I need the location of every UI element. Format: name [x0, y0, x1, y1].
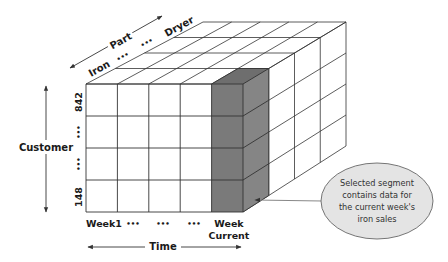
- customer-ellipsis-1: •••: [75, 125, 83, 138]
- part-axis-label: Part: [108, 30, 134, 51]
- time-col-ellipsis-2: •••: [156, 220, 169, 228]
- callout-bubble: Selected segment contains data for the c…: [321, 163, 433, 239]
- callout-line-1: Selected segment: [340, 178, 415, 188]
- customer-bottom-label: 148: [73, 187, 84, 207]
- callout-line-4: iron sales: [357, 214, 396, 224]
- customer-axis-label: Customer: [19, 142, 73, 153]
- callout-line-2: contains data for: [342, 190, 412, 200]
- time-col-current-line1: Week: [214, 218, 244, 229]
- time-col-ellipsis-3: •••: [187, 220, 200, 228]
- time-col-ellipsis-1: •••: [126, 220, 139, 228]
- customer-ellipsis-2: •••: [75, 157, 83, 170]
- callout-line-3: the current week's: [339, 202, 415, 212]
- time-col-week1: Week1: [86, 218, 122, 229]
- customer-top-label: 842: [73, 92, 84, 112]
- time-axis-label: Time: [149, 241, 177, 252]
- time-col-current-line2: Current: [209, 230, 250, 241]
- callout-pointer: [255, 200, 322, 201]
- part-ellipsis-2: •••: [139, 36, 155, 50]
